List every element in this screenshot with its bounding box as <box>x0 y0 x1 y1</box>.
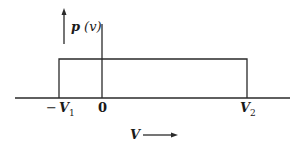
y-axis-label: p(v) <box>71 19 102 34</box>
uniform-density-rectangle <box>59 59 247 98</box>
tick-label-neg-v1: −V1 <box>46 100 75 118</box>
x-axis-label: V <box>130 127 142 142</box>
pdf-diagram: p(v) −V1 0 V2 V <box>0 0 305 147</box>
right-arrow-icon <box>143 133 178 138</box>
tick-label-v2: V2 <box>240 100 256 118</box>
tick-label-zero: 0 <box>98 100 107 115</box>
up-arrow-icon <box>62 8 67 44</box>
